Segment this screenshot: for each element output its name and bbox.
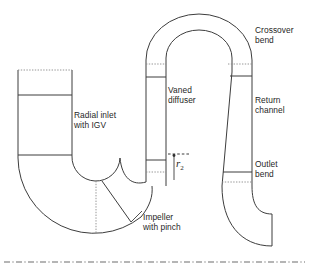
compressor-flowpath-figure: Radial inlet with IGV Vaned diffuser Imp… <box>0 0 312 274</box>
r2-subscript: 2 <box>180 164 184 172</box>
outlet-bend-outer-wall <box>222 186 272 246</box>
crossover-bend-inner-wall <box>166 30 232 72</box>
outlet-bend-inner-wall <box>252 186 272 214</box>
return-channel-inner-wall <box>222 72 232 186</box>
impeller-with-pinch-shroud <box>120 158 146 183</box>
label-return-channel: Return channel <box>255 95 285 116</box>
label-impeller-with-pinch: Impeller with pinch <box>143 212 181 233</box>
label-vaned-diffuser: Vaned diffuser <box>168 85 196 106</box>
radial-inlet-with-igv-outer-wall <box>18 70 141 233</box>
label-outlet-bend: Outlet bend <box>255 159 278 180</box>
crossover-bend-outer-wall <box>146 14 252 72</box>
label-crossover-bend: Crossover bend <box>255 25 294 46</box>
label-impeller-exit-radius-r2: r2 <box>176 157 184 172</box>
label-radial-inlet-with-igv: Radial inlet with IGV <box>74 110 116 131</box>
impeller-pinch-line <box>102 181 131 222</box>
